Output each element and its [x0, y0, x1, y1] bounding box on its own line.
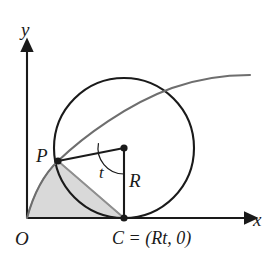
contact-dot	[120, 214, 127, 221]
y-axis-label: y	[21, 20, 29, 39]
origin-label: O	[15, 229, 29, 248]
x-axis-label: x	[253, 210, 261, 229]
center-coordinate-label: C = (Rt, 0)	[112, 229, 191, 247]
point-p-dot	[54, 157, 61, 164]
cycloid-figure: y x O P t R C = (Rt, 0)	[0, 0, 278, 263]
segment-center-to-p	[58, 148, 124, 161]
center-dot	[120, 144, 127, 151]
diagram-canvas	[0, 0, 278, 263]
angle-t-label: t	[99, 164, 104, 181]
point-p-label: P	[36, 146, 48, 165]
radius-r-label: R	[129, 171, 141, 190]
